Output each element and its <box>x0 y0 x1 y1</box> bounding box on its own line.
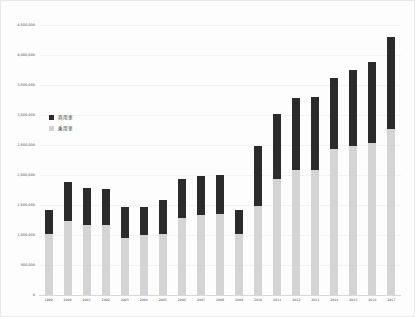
y-axis-tick-label: 2,500,000 <box>17 143 35 147</box>
x-axis-tick-label: 2017 <box>387 298 395 302</box>
chart-legend: 商用車乗用車 <box>49 114 73 131</box>
legend-swatch-icon <box>49 115 54 120</box>
x-axis-tick-label: 2012 <box>292 298 300 302</box>
bar-segment-commercial[interactable] <box>254 146 262 206</box>
bar-segment-passenger[interactable] <box>254 206 262 295</box>
bar-column[interactable]: 2002 <box>102 25 110 295</box>
bar-column[interactable]: 2012 <box>292 25 300 295</box>
bar-column[interactable]: 2004 <box>140 25 148 295</box>
bar-segment-passenger[interactable] <box>45 234 53 295</box>
bar-segment-commercial[interactable] <box>159 200 167 234</box>
y-axis-tick-label: 0 <box>33 293 35 297</box>
bar-segment-passenger[interactable] <box>349 146 357 295</box>
bar-segment-passenger[interactable] <box>311 170 319 295</box>
x-axis-tick-label: 2001 <box>83 298 91 302</box>
bar-segment-passenger[interactable] <box>159 234 167 295</box>
y-axis-tick-label: 3,000,000 <box>17 113 35 117</box>
bar-column[interactable]: 2011 <box>273 25 281 295</box>
bar-segment-commercial[interactable] <box>64 182 72 222</box>
bar-segment-commercial[interactable] <box>83 188 91 225</box>
bar-segment-commercial[interactable] <box>235 210 243 234</box>
bar-segment-passenger[interactable] <box>216 214 224 295</box>
y-axis-tick-label: 1,500,000 <box>17 203 35 207</box>
x-axis-tick-label: 2016 <box>368 298 376 302</box>
bar-segment-commercial[interactable] <box>387 37 395 129</box>
bar-segment-commercial[interactable] <box>273 114 281 179</box>
bar-segment-commercial[interactable] <box>216 175 224 214</box>
bar-segment-commercial[interactable] <box>349 70 357 146</box>
x-axis-tick-label: 2006 <box>178 298 186 302</box>
legend-item-label: 乗用車 <box>58 125 73 131</box>
x-axis-tick-label: 2002 <box>102 298 110 302</box>
x-axis-tick-label: 2011 <box>273 298 281 302</box>
bar-column[interactable]: 2003 <box>121 25 129 295</box>
x-axis-tick-label: 2005 <box>159 298 167 302</box>
x-axis-tick-label: 2007 <box>197 298 205 302</box>
bar-segment-passenger[interactable] <box>140 235 148 295</box>
bar-segment-commercial[interactable] <box>178 179 186 218</box>
x-axis-tick-label: 2003 <box>121 298 129 302</box>
bar-column[interactable]: 2000 <box>64 25 72 295</box>
bar-segment-commercial[interactable] <box>330 78 338 149</box>
y-axis-tick-label: 500,000 <box>21 263 35 267</box>
plot-area: 4,500,0004,000,0003,500,0003,000,0002,50… <box>39 25 401 295</box>
x-axis-tick-label: 2004 <box>140 298 148 302</box>
bar-column[interactable]: 2013 <box>311 25 319 295</box>
bar-segment-passenger[interactable] <box>292 170 300 295</box>
bar-column[interactable]: 2015 <box>349 25 357 295</box>
bar-segment-commercial[interactable] <box>45 210 53 234</box>
bar-column[interactable]: 2008 <box>216 25 224 295</box>
bar-segment-passenger[interactable] <box>121 238 129 295</box>
bar-segment-passenger[interactable] <box>102 225 110 295</box>
x-axis-tick-label: 2013 <box>311 298 319 302</box>
axis-baseline <box>39 295 401 296</box>
bar-column[interactable]: 2010 <box>254 25 262 295</box>
y-axis-tick-label: 1,000,000 <box>17 233 35 237</box>
x-axis-tick-label: 2014 <box>330 298 338 302</box>
bar-column[interactable]: 1999 <box>45 25 53 295</box>
bar-segment-passenger[interactable] <box>273 179 281 295</box>
legend-swatch-icon <box>49 126 54 131</box>
bar-segment-passenger[interactable] <box>368 143 376 295</box>
stacked-bar-chart-figure: 4,500,0004,000,0003,500,0003,000,0002,50… <box>0 0 415 317</box>
bar-segment-passenger[interactable] <box>197 215 205 295</box>
bar-column[interactable]: 2017 <box>387 25 395 295</box>
x-axis-tick-label: 2008 <box>216 298 224 302</box>
bar-segment-commercial[interactable] <box>311 97 319 170</box>
x-axis-tick-label: 2010 <box>254 298 262 302</box>
bar-segment-commercial[interactable] <box>368 62 376 144</box>
bar-column[interactable]: 2016 <box>368 25 376 295</box>
bar-segment-commercial[interactable] <box>197 176 205 216</box>
bar-column[interactable]: 2001 <box>83 25 91 295</box>
bar-column[interactable]: 2014 <box>330 25 338 295</box>
bar-segment-commercial[interactable] <box>102 189 110 226</box>
x-axis-tick-label: 2009 <box>235 298 243 302</box>
bar-segment-commercial[interactable] <box>292 98 300 169</box>
bar-segment-commercial[interactable] <box>140 207 148 235</box>
bar-segment-passenger[interactable] <box>330 149 338 295</box>
bar-column[interactable]: 2005 <box>159 25 167 295</box>
bar-segment-passenger[interactable] <box>178 218 186 295</box>
bar-segment-passenger[interactable] <box>64 221 72 295</box>
bar-segment-commercial[interactable] <box>121 207 129 238</box>
bar-column[interactable]: 2009 <box>235 25 243 295</box>
bar-segment-passenger[interactable] <box>387 129 395 295</box>
y-axis-tick-label: 2,000,000 <box>17 173 35 177</box>
bar-segment-passenger[interactable] <box>235 234 243 295</box>
legend-item-label: 商用車 <box>58 114 73 120</box>
bar-segment-passenger[interactable] <box>83 225 91 295</box>
legend-item[interactable]: 商用車 <box>49 114 73 120</box>
y-axis-tick-label: 4,500,000 <box>17 23 35 27</box>
x-axis-tick-label: 1999 <box>44 298 52 302</box>
bar-column[interactable]: 2007 <box>197 25 205 295</box>
bars-group: 1999200020012002200320042005200620072008… <box>39 25 401 295</box>
y-axis-tick-label: 4,000,000 <box>17 53 35 57</box>
y-axis-tick-label: 3,500,000 <box>17 83 35 87</box>
x-axis-tick-label: 2015 <box>349 298 357 302</box>
legend-item[interactable]: 乗用車 <box>49 125 73 131</box>
bar-column[interactable]: 2006 <box>178 25 186 295</box>
x-axis-tick-label: 2000 <box>64 298 72 302</box>
